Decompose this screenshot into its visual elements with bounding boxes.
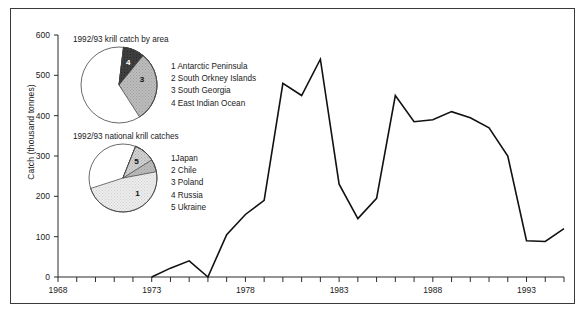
svg-text:400: 400 — [36, 111, 50, 121]
svg-text:200: 200 — [36, 191, 50, 201]
svg-text:1973: 1973 — [142, 285, 161, 295]
pie-national-chart: 12345 — [87, 142, 159, 214]
pie-slice-label: 4 — [126, 58, 131, 67]
y-axis-ticks: 0100200300400500600 — [36, 30, 58, 282]
legend-item: 2 South Orkney Islands — [171, 73, 256, 85]
legend-item: 3 Poland — [171, 177, 206, 189]
pie-by-area-legend: 1 Antarctic Peninsula 2 South Orkney Isl… — [171, 61, 256, 110]
pie-by-area-chart: 1234 — [79, 45, 159, 125]
pie-by-area-slices: 1234 — [119, 47, 157, 117]
pie-national-title: 1992/93 national krill catches — [73, 132, 179, 141]
svg-text:1993: 1993 — [517, 285, 536, 295]
svg-text:1978: 1978 — [236, 285, 255, 295]
svg-text:600: 600 — [36, 30, 50, 40]
pie-slice-label: 1 — [135, 189, 140, 198]
chart-frame: Catch (thousand tonnes) 0100200300400500… — [10, 8, 575, 304]
svg-text:1968: 1968 — [49, 285, 68, 295]
x-axis-ticks: 196819731978198319881993 — [49, 277, 564, 295]
pie-slice-label: 3 — [140, 75, 145, 84]
pie-by-area-title: 1992/93 krill catch by area — [73, 35, 169, 44]
legend-item: 4 Russia — [171, 190, 206, 202]
svg-text:300: 300 — [36, 151, 50, 161]
legend-item: 4 East Indian Ocean — [171, 98, 256, 110]
legend-item: 5 Ukraine — [171, 202, 206, 214]
pie-national-legend: 1Japan 2 Chile 3 Poland 4 Russia 5 Ukrai… — [171, 153, 206, 214]
legend-item: 3 South Georgia — [171, 85, 256, 97]
svg-text:1988: 1988 — [423, 285, 442, 295]
svg-text:1983: 1983 — [330, 285, 349, 295]
svg-text:100: 100 — [36, 232, 50, 242]
svg-text:0: 0 — [45, 272, 50, 282]
pie-slice-label: 5 — [134, 157, 139, 166]
legend-item: 1Japan — [171, 153, 206, 165]
legend-item: 2 Chile — [171, 165, 206, 177]
svg-text:500: 500 — [36, 70, 50, 80]
chart-screenshot: Catch (thousand tonnes) 0100200300400500… — [0, 0, 585, 319]
legend-item: 1 Antarctic Peninsula — [171, 61, 256, 73]
